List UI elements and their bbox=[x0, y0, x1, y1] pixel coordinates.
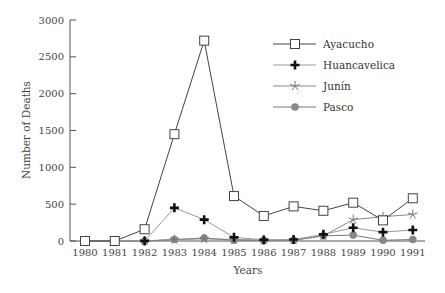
y-tick-label: 3000 bbox=[39, 15, 64, 26]
x-tick-label: 1990 bbox=[370, 247, 395, 258]
axes: 0500100015002000250030001980198119821983… bbox=[39, 15, 426, 259]
x-tick-label: 1984 bbox=[191, 247, 216, 258]
circle-marker-icon bbox=[291, 103, 299, 111]
x-tick-label: 1985 bbox=[221, 247, 246, 258]
legend-item: Ayacucho bbox=[273, 38, 374, 50]
square-marker-icon bbox=[110, 237, 119, 246]
series-junín bbox=[80, 209, 417, 245]
plus-marker-icon bbox=[291, 61, 300, 70]
x-tick-label: 1988 bbox=[311, 247, 336, 258]
x-axis-label: Years bbox=[233, 264, 263, 276]
legend-label: Huancavelica bbox=[323, 59, 395, 71]
square-marker-icon bbox=[200, 36, 209, 45]
x-tick-label: 1987 bbox=[281, 247, 306, 258]
y-tick-label: 1500 bbox=[39, 125, 64, 136]
series-huancavelica bbox=[81, 203, 418, 245]
square-marker-icon bbox=[349, 198, 358, 207]
legend: AyacuchoHuancavelicaJunínPasco bbox=[273, 38, 395, 113]
square-marker-icon bbox=[379, 216, 388, 225]
plus-marker-icon bbox=[259, 235, 268, 244]
circle-marker-icon bbox=[409, 236, 417, 244]
x-tick-label: 1986 bbox=[251, 247, 276, 258]
legend-item: Huancavelica bbox=[273, 59, 395, 71]
x-tick-label: 1982 bbox=[132, 247, 157, 258]
x-tick-label: 1983 bbox=[162, 247, 187, 258]
legend-label: Pasco bbox=[323, 101, 353, 113]
y-tick-label: 1000 bbox=[39, 162, 64, 173]
y-tick-label: 500 bbox=[45, 199, 64, 210]
legend-item: Pasco bbox=[273, 101, 353, 113]
x-tick-label: 1989 bbox=[340, 247, 365, 258]
y-tick-label: 0 bbox=[58, 236, 64, 247]
series-pasco bbox=[81, 231, 416, 244]
plus-marker-icon bbox=[289, 235, 298, 244]
y-tick-label: 2500 bbox=[39, 51, 64, 62]
square-marker-icon bbox=[259, 211, 268, 220]
y-tick-label: 2000 bbox=[39, 88, 64, 99]
y-axis-label: Number of Deaths bbox=[20, 81, 32, 179]
line-chart: 0500100015002000250030001980198119821983… bbox=[0, 0, 445, 293]
square-marker-icon bbox=[140, 225, 149, 234]
series-line bbox=[85, 208, 413, 241]
square-marker-icon bbox=[319, 206, 328, 215]
x-tick-label: 1991 bbox=[400, 247, 425, 258]
legend-label: Ayacucho bbox=[322, 38, 374, 50]
square-marker-icon bbox=[81, 237, 90, 246]
star-marker-icon bbox=[408, 209, 418, 218]
circle-marker-icon bbox=[379, 236, 387, 244]
plus-marker-icon bbox=[200, 215, 209, 224]
square-marker-icon bbox=[291, 40, 300, 49]
plus-marker-icon bbox=[408, 225, 417, 234]
square-marker-icon bbox=[289, 202, 298, 211]
square-marker-icon bbox=[230, 192, 239, 201]
x-tick-label: 1980 bbox=[72, 247, 97, 258]
plus-marker-icon bbox=[349, 223, 358, 232]
circle-marker-icon bbox=[349, 231, 357, 239]
plus-marker-icon bbox=[379, 228, 388, 237]
legend-label: Junín bbox=[322, 80, 351, 92]
legend-item: Junín bbox=[273, 80, 351, 92]
square-marker-icon bbox=[170, 130, 179, 139]
square-marker-icon bbox=[408, 194, 417, 203]
x-tick-label: 1981 bbox=[102, 247, 127, 258]
